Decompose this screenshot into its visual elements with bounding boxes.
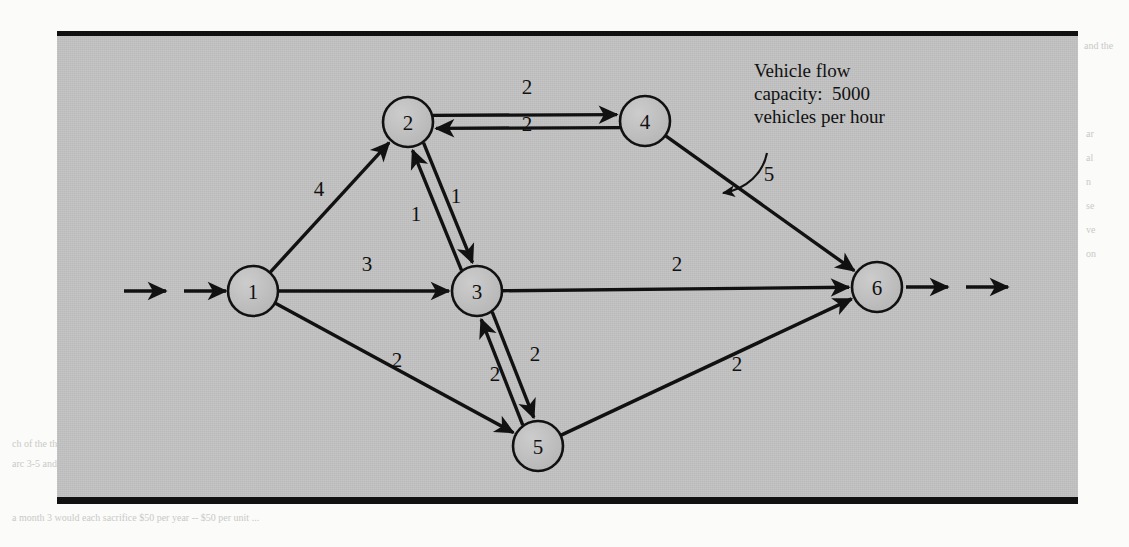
node-label-4: 4 <box>640 110 651 134</box>
edge-label-2-4: 2 <box>522 112 533 136</box>
ghost-text-bottom-3: a month 3 would each sacrifice $50 per y… <box>12 512 259 524</box>
edge-label-5-6: 2 <box>732 352 743 376</box>
node-label-6: 6 <box>872 276 883 300</box>
ghost-text-right-4: n <box>1086 176 1091 188</box>
edge-label-1-5: 2 <box>392 348 403 372</box>
node-label-2: 2 <box>403 111 414 135</box>
ghost-text-right-7: on <box>1086 248 1096 260</box>
edge-label-2-3: 1 <box>451 184 462 208</box>
node-label-5: 5 <box>533 435 544 459</box>
ghost-text-right-0: and the <box>1084 40 1113 52</box>
edge-label-4-6: 5 <box>764 162 775 186</box>
capacity-annotation: Vehicle flow capacity: 5000 vehicles per… <box>754 59 885 128</box>
ghost-text-right-5: se <box>1086 200 1094 212</box>
ghost-text-right-6: ve <box>1086 224 1095 236</box>
network-graph: 432221122252 123456 <box>57 31 1078 503</box>
ghost-text-right-3: al <box>1086 152 1093 164</box>
annotation-leader-arrow <box>723 153 767 193</box>
edge-2-3 <box>423 143 472 263</box>
edge-label-3-2: 1 <box>411 202 422 226</box>
node-label-1: 1 <box>248 280 259 304</box>
edge-label-3-5: 2 <box>530 342 541 366</box>
network-flow-figure: 432221122252 123456 Vehicle flow capacit… <box>57 31 1078 503</box>
edge-4-6 <box>665 136 854 271</box>
edge-label-1-2: 4 <box>314 177 325 201</box>
edge-label-5-3: 2 <box>490 362 501 386</box>
node-label-3: 3 <box>472 280 483 304</box>
edge-label-3-6: 2 <box>672 252 683 276</box>
edge-3-6 <box>502 287 849 290</box>
edge-5-6 <box>561 299 852 435</box>
edge-label-1-3: 3 <box>362 252 373 276</box>
ghost-text-right-2: ar <box>1086 128 1094 140</box>
edge-label-4-2: 2 <box>522 75 533 99</box>
